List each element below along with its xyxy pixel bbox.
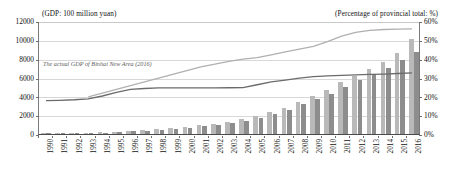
y-axis-tick-label: 8000 [19, 56, 34, 63]
x-axis-tick [66, 136, 67, 138]
x-axis-tick-label: 1990 [48, 139, 55, 153]
chart-container: (GDP: 100 million yuan) (Percentage of p… [0, 0, 460, 175]
x-axis-tick-label: 2004 [246, 139, 253, 153]
x-axis-tick-label: 1994 [105, 139, 112, 153]
x-axis-tick-label: 2002 [218, 139, 225, 153]
x-axis-tick [236, 136, 237, 138]
y2-axis-tick-label: 20% [424, 94, 438, 101]
chart-annotation: The actual GDP of Binhai New Area (2016) [43, 60, 152, 67]
x-axis-tick [179, 136, 180, 138]
x-axis-tick [335, 136, 336, 138]
y2-axis-tick-label: 50% [424, 37, 438, 44]
x-axis-tick-label: 2008 [303, 139, 310, 153]
line-lower [46, 73, 412, 101]
x-axis-tick-label: 2013 [374, 139, 381, 153]
y-axis-tick-label: 10000 [16, 37, 34, 44]
x-axis-tick [264, 136, 265, 138]
x-axis-tick [406, 136, 407, 138]
y2-axis-tick-label: 60% [424, 18, 438, 25]
y-axis-tick-label: 4000 [19, 94, 34, 101]
x-axis-tick [194, 136, 195, 138]
y2-axis-tick [419, 116, 422, 117]
x-axis-tick [109, 136, 110, 138]
y2-axis-tick-label: 0% [424, 131, 434, 138]
x-axis-tick [378, 136, 379, 138]
x-axis-tick-label: 2005 [260, 139, 267, 153]
line-layer [39, 22, 419, 134]
x-axis-tick [95, 136, 96, 138]
x-axis-tick-label: 2006 [275, 139, 282, 153]
y2-axis-tick-label: 30% [424, 75, 438, 82]
y2-axis-tick-label: 10% [424, 112, 438, 119]
x-axis-tick-label: 1999 [176, 139, 183, 153]
x-axis-tick [165, 136, 166, 138]
x-axis-tick-label: 1991 [62, 139, 69, 153]
x-axis-tick [222, 136, 223, 138]
x-axis-tick [80, 136, 81, 138]
x-axis-tick [151, 136, 152, 138]
x-axis-tick [293, 136, 294, 138]
x-axis-tick-label: 2003 [232, 139, 239, 153]
x-axis-tick [38, 136, 39, 138]
x-axis-tick [279, 136, 280, 138]
left-axis-title: (GDP: 100 million yuan) [42, 10, 116, 18]
y2-axis-tick-label: 40% [424, 56, 438, 63]
x-axis-tick [52, 136, 53, 138]
y-axis-tick-label: 6000 [19, 75, 34, 82]
y-axis-tick-label: 12000 [16, 18, 34, 25]
plot-area: 0200040006000800010000120000%10%20%30%40… [38, 22, 420, 135]
y-axis-tick-label: 2000 [19, 112, 34, 119]
x-axis-tick [123, 136, 124, 138]
y2-axis-tick [419, 97, 422, 98]
x-axis-tick [307, 136, 308, 138]
x-axis-tick [363, 136, 364, 138]
x-axis-tick [208, 136, 209, 138]
x-axis-tick-label: 2010 [331, 139, 338, 153]
x-axis-tick-label: 2007 [289, 139, 296, 153]
x-axis-tick-label: 2015 [402, 139, 409, 153]
x-axis-tick-label: 2011 [345, 139, 352, 153]
y2-axis-tick [419, 22, 422, 23]
x-axis-tick [392, 136, 393, 138]
x-axis-tick-label: 2016 [416, 139, 423, 153]
x-axis-tick-label: 1998 [161, 139, 168, 153]
x-axis-tick [250, 136, 251, 138]
x-axis-tick-label: 1997 [147, 139, 154, 153]
x-axis-tick-label: 1993 [91, 139, 98, 153]
x-axis-tick-label: 2014 [388, 139, 395, 153]
x-axis-tick [321, 136, 322, 138]
x-axis-tick-label: 2001 [204, 139, 211, 153]
x-axis-labels: 1990199119921993199419951996199719981999… [38, 136, 420, 175]
x-axis-tick-label: 2009 [317, 139, 324, 153]
x-axis-tick-label: 1996 [133, 139, 140, 153]
y2-axis-tick [419, 60, 422, 61]
y2-axis-tick [419, 79, 422, 80]
x-axis-tick [137, 136, 138, 138]
y-axis-tick-label: 0 [30, 131, 34, 138]
y2-axis-tick [419, 41, 422, 42]
x-axis-tick-label: 1992 [77, 139, 84, 153]
x-axis-tick-label: 2000 [190, 139, 197, 153]
x-axis-tick [349, 136, 350, 138]
right-axis-title: (Percentage of provincial total: %) [335, 10, 438, 18]
x-axis-tick-label: 2012 [360, 139, 367, 153]
x-axis-tick-label: 1995 [119, 139, 126, 153]
